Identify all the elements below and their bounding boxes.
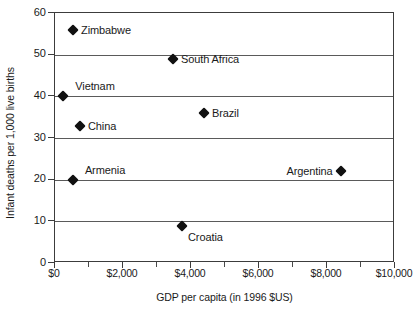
y-tick-label: 50 <box>2 48 46 59</box>
x-tick-mark-minor <box>88 262 89 267</box>
gridline <box>55 221 393 222</box>
data-point-marker <box>67 24 78 35</box>
data-point-label: Zimbabwe <box>81 24 131 36</box>
data-point-label: Armenia <box>85 164 125 176</box>
data-point-marker <box>74 120 85 131</box>
data-point-marker <box>67 174 78 185</box>
x-tick-mark-minor <box>292 262 293 267</box>
y-tick-label: 40 <box>2 90 46 101</box>
gridline <box>55 180 393 181</box>
x-axis-title: GDP per capita (in 1996 $US) <box>54 291 395 303</box>
data-point-marker <box>57 91 68 102</box>
gridline <box>55 96 393 97</box>
x-tick-mark <box>326 262 327 268</box>
x-tick-mark <box>54 262 55 268</box>
data-point-label: Argentina <box>286 165 332 177</box>
x-tick-label: $4,000 <box>175 268 206 279</box>
y-tick-label: 10 <box>2 215 46 226</box>
x-tick-label: $2,000 <box>107 268 138 279</box>
data-point-label: China <box>88 120 116 132</box>
data-point-label: Brazil <box>212 107 239 119</box>
data-point-label: Vietnam <box>75 80 114 92</box>
x-tick-mark-minor <box>224 262 225 267</box>
scatter-chart: Infant deaths per 1,000 live births 0102… <box>0 0 416 312</box>
x-tick-label: $10,000 <box>376 268 413 279</box>
data-point-label: South Africa <box>181 53 239 65</box>
x-tick-mark <box>190 262 191 268</box>
y-tick-label: 20 <box>2 173 46 184</box>
x-tick-label: $0 <box>48 268 59 279</box>
data-point-label: Croatia <box>188 231 223 243</box>
gridline <box>55 138 393 139</box>
x-tick-label: $8,000 <box>311 268 342 279</box>
data-point-marker <box>198 107 209 118</box>
data-point-marker <box>335 166 346 177</box>
x-tick-mark <box>258 262 259 268</box>
y-tick-label: 0 <box>2 257 46 268</box>
plot-area: ZimbabweSouth AfricaVietnamBrazilChinaAr… <box>54 12 394 262</box>
x-tick-mark-minor <box>360 262 361 267</box>
y-tick-label: 30 <box>2 132 46 143</box>
x-tick-label: $6,000 <box>243 268 274 279</box>
x-tick-mark <box>394 262 395 268</box>
x-tick-mark-minor <box>156 262 157 267</box>
y-tick-label: 60 <box>2 7 46 18</box>
x-tick-mark <box>122 262 123 268</box>
